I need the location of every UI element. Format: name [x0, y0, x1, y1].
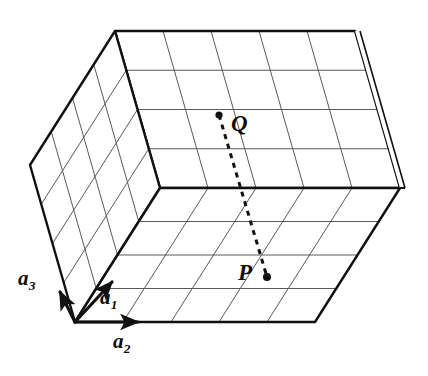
axis-label-a1-base: a [100, 285, 111, 309]
axis-label-a2-subscript: 2 [124, 341, 131, 356]
point-label-p: P [238, 261, 252, 284]
point-p-dot [263, 273, 271, 281]
axis-label-a1-subscript: 1 [111, 297, 118, 312]
axis-label-a3-subscript: 3 [29, 278, 36, 293]
lattice-figure: a1 a2 a3 P Q [0, 0, 428, 376]
top-face [115, 31, 400, 188]
point-label-q: Q [231, 112, 248, 135]
axis-label-a3: a3 [18, 268, 35, 289]
axis-label-a2: a2 [113, 331, 130, 352]
axis-label-a3-base: a [18, 266, 29, 290]
axis-label-a2-base: a [113, 329, 124, 353]
point-q-dot [215, 111, 222, 118]
axis-label-a1: a1 [100, 287, 117, 308]
lattice-parallelepiped-drawing [0, 0, 428, 376]
